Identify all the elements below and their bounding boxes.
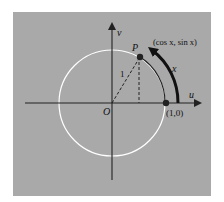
arc-on-circle: [140, 57, 165, 103]
u-axis-label: u: [189, 89, 194, 100]
point-p-label: P: [131, 42, 138, 53]
point-p-coords-label: (cos x, sin x): [153, 37, 197, 47]
point-one-zero: [163, 100, 169, 106]
origin-label: O: [103, 106, 110, 117]
point-one-zero-label: (1,0): [166, 108, 183, 118]
v-axis-label: v: [117, 27, 122, 38]
unit-circle-diagram: v u O P (cos x, sin x) 1 x (1,0): [0, 0, 224, 202]
arc-length-label: x: [171, 63, 177, 74]
radius-label: 1: [120, 69, 125, 79]
point-p: [137, 54, 143, 60]
radius-line: [112, 57, 140, 103]
